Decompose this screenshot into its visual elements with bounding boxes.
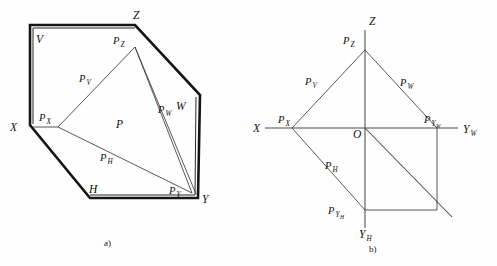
svg-text:P: P <box>423 114 431 125</box>
caption-a: a) <box>104 238 111 248</box>
panel-a-label-Pv: P V <box>78 73 93 87</box>
svg-text:H: H <box>107 158 114 166</box>
svg-text:P: P <box>324 160 332 171</box>
panel-a-label-Y: Y <box>202 193 210 205</box>
svg-text:V: V <box>313 82 319 90</box>
svg-text:P: P <box>342 35 350 46</box>
panel-b-label-Z: Z <box>369 15 376 27</box>
panel-a-label-Pw: P W <box>157 104 173 118</box>
svg-text:H: H <box>339 214 345 220</box>
panel-b-group: X Z O Y W Y H P V P W P H <box>252 15 478 243</box>
svg-text:P: P <box>78 73 86 84</box>
technical-drawing-svg: V W H P X Y Z P V P W P H P <box>0 0 497 266</box>
panel-a-w-plane-inner-edge <box>195 97 196 195</box>
panel-a-label-Ph: P H <box>99 152 114 166</box>
panel-b-label-Pv: P V <box>304 76 319 90</box>
svg-text:W: W <box>408 83 415 91</box>
svg-text:V: V <box>87 79 93 87</box>
panel-a-label-H: H <box>88 183 98 195</box>
panel-b-label-Pyh: P Y H <box>327 205 345 220</box>
panel-a-label-W: W <box>176 100 187 112</box>
svg-text:P: P <box>327 205 335 216</box>
panel-b-label-Px: P X <box>277 114 291 128</box>
svg-text:P: P <box>304 76 312 87</box>
svg-text:P: P <box>399 77 407 88</box>
panel-a-label-Pz: P Z <box>112 35 126 49</box>
panel-a-label-V: V <box>36 33 45 45</box>
panel-a-plane-p-triangle <box>58 47 192 193</box>
svg-text:P: P <box>99 152 107 163</box>
svg-text:P: P <box>112 35 120 46</box>
svg-text:X: X <box>46 118 52 126</box>
panel-b-axis-y-oblique <box>365 128 452 217</box>
caption-b: b) <box>369 244 377 254</box>
panel-b-trace-pv <box>292 50 365 128</box>
panel-b-label-X: X <box>252 122 261 134</box>
panel-a-trace-pw-ray <box>135 47 196 194</box>
figure-root: V W H P X Y Z P V P W P H P <box>0 0 497 266</box>
panel-a-label-X: X <box>9 121 18 133</box>
panel-a-label-Z: Z <box>133 9 140 21</box>
svg-text:P: P <box>277 114 285 125</box>
panel-b-label-Yw: Y W <box>463 123 478 138</box>
panel-a-outer-boundary <box>30 25 200 198</box>
svg-text:P: P <box>168 185 176 196</box>
panel-b-label-Pz: P Z <box>342 35 356 49</box>
svg-text:H: H <box>332 166 339 174</box>
panel-a-label-P: P <box>115 118 123 130</box>
svg-text:H: H <box>366 235 373 243</box>
panel-a-label-Px: P X <box>38 112 52 126</box>
svg-text:Z: Z <box>121 41 126 49</box>
svg-text:Z: Z <box>351 41 356 49</box>
svg-text:W: W <box>471 130 478 138</box>
panel-b-label-Yh: Y H <box>359 228 373 243</box>
panel-a-group: V W H P X Y Z P V P W P H P <box>9 9 210 205</box>
svg-text:W: W <box>166 110 173 118</box>
svg-text:P: P <box>157 104 165 115</box>
panel-b-label-O: O <box>353 128 362 140</box>
panel-b-rabatment-square <box>365 128 437 210</box>
svg-text:P: P <box>38 112 46 123</box>
panel-b-label-Pyw: P Y W <box>423 114 442 129</box>
svg-text:X: X <box>285 120 291 128</box>
